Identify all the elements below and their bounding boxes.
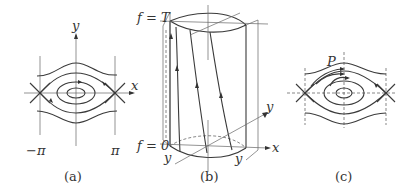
b-trajectory-3 <box>210 32 232 150</box>
panel-b-cylinder: f = T f = 0 x y y y (b) <box>136 5 280 184</box>
b-y-label: y <box>265 99 274 114</box>
a-top-rotating-orbit <box>37 63 117 76</box>
b-y-right-bottom-label: y <box>234 151 243 166</box>
c-spiral-path <box>316 74 342 84</box>
a-lower-separatrix <box>40 93 115 113</box>
c-upper-separatrix <box>305 71 386 93</box>
b-caption: (b) <box>200 169 218 184</box>
c-caption: (c) <box>335 169 352 184</box>
b-x-label: x <box>272 140 280 155</box>
b-right-plane <box>246 20 258 160</box>
c-point-p-label: P <box>326 54 336 69</box>
c-bottom-rotating-orbit <box>305 113 386 124</box>
c-lower-separatrix <box>305 93 386 114</box>
b-top-label: f = T <box>136 10 171 25</box>
b-trajectory-arrow-icon <box>195 82 199 88</box>
a-x-label: x <box>131 78 139 93</box>
a-y-axis-arrow-icon <box>74 33 78 39</box>
a-minus-pi-label: −π <box>26 143 46 158</box>
b-trajectory-1 <box>176 27 180 152</box>
b-x-axis-arrow-icon <box>265 146 271 150</box>
b-trajectory-2 <box>190 30 207 153</box>
b-y-axis <box>175 114 265 164</box>
b-x-axis <box>160 144 268 148</box>
b-y-left-bottom-label: y <box>163 150 172 165</box>
panel-c-phase-portrait: P (c) <box>287 52 395 184</box>
a-y-label: y <box>71 18 80 33</box>
diagram-canvas: y x −π π (a) <box>0 0 416 196</box>
c-top-rotating-orbit <box>305 63 386 74</box>
b-trajectory-arrow-icon <box>175 65 179 71</box>
a-caption: (a) <box>64 169 82 184</box>
b-left-plane <box>163 12 170 146</box>
c-spiral-arrow-icon <box>345 76 350 80</box>
a-orbit-arrow-icon <box>78 80 82 84</box>
a-pi-label: π <box>110 143 120 158</box>
panel-a-phase-portrait: y x −π π (a) <box>24 18 139 184</box>
